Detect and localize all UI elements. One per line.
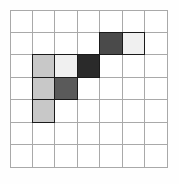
grid-cell-empty-2-4[interactable] xyxy=(55,100,78,123)
grid-cell-empty-1-5[interactable] xyxy=(33,123,56,146)
grid-cell-empty-3-5[interactable] xyxy=(78,123,101,146)
grid-cell-filled-2-3[interactable] xyxy=(55,78,78,101)
grid-cell-empty-2-6[interactable] xyxy=(55,145,78,168)
grid-cell-fill-2-2 xyxy=(54,54,78,78)
grid-cell-filled-1-2[interactable] xyxy=(33,55,56,78)
grid-cell-empty-6-5[interactable] xyxy=(145,123,168,146)
grid-cell-empty-5-3[interactable] xyxy=(123,78,146,101)
grid-cell-empty-6-3[interactable] xyxy=(145,78,168,101)
grid-cell-fill-1-3 xyxy=(32,77,56,101)
grid-cell-empty-3-6[interactable] xyxy=(78,145,101,168)
grid-cell-empty-0-6[interactable] xyxy=(10,145,33,168)
grid-cell-empty-5-5[interactable] xyxy=(123,123,146,146)
grid-cell-empty-5-2[interactable] xyxy=(123,55,146,78)
grid-cell-empty-5-0[interactable] xyxy=(123,10,146,33)
grid-canvas xyxy=(0,0,179,184)
grid-cell-empty-5-4[interactable] xyxy=(123,100,146,123)
grid-cell-fill-1-2 xyxy=(32,54,56,78)
grid-board xyxy=(10,10,168,168)
grid-cell-empty-0-0[interactable] xyxy=(10,10,33,33)
grid-cell-empty-6-0[interactable] xyxy=(145,10,168,33)
grid-cell-fill-4-1 xyxy=(99,32,123,56)
grid-cell-empty-2-1[interactable] xyxy=(55,33,78,56)
grid-cell-empty-6-2[interactable] xyxy=(145,55,168,78)
grid-cell-empty-0-2[interactable] xyxy=(10,55,33,78)
grid-cell-empty-1-6[interactable] xyxy=(33,145,56,168)
grid-cell-fill-2-3 xyxy=(54,77,78,101)
grid-cell-empty-4-5[interactable] xyxy=(100,123,123,146)
grid-cell-empty-3-3[interactable] xyxy=(78,78,101,101)
grid-cell-filled-2-2[interactable] xyxy=(55,55,78,78)
grid-cell-empty-3-4[interactable] xyxy=(78,100,101,123)
grid-cell-filled-4-1[interactable] xyxy=(100,33,123,56)
grid-cell-empty-4-4[interactable] xyxy=(100,100,123,123)
grid-cell-empty-0-3[interactable] xyxy=(10,78,33,101)
grid-cell-fill-3-2 xyxy=(77,54,101,78)
grid-cell-fill-1-4 xyxy=(32,99,56,123)
grid-cell-fill-5-1 xyxy=(122,32,146,56)
grid-cell-empty-0-4[interactable] xyxy=(10,100,33,123)
grid-cell-empty-2-5[interactable] xyxy=(55,123,78,146)
grid-cell-empty-2-0[interactable] xyxy=(55,10,78,33)
grid-cell-empty-3-1[interactable] xyxy=(78,33,101,56)
grid-cell-empty-4-2[interactable] xyxy=(100,55,123,78)
grid-cell-empty-3-0[interactable] xyxy=(78,10,101,33)
grid-cell-empty-6-1[interactable] xyxy=(145,33,168,56)
grid-cell-empty-1-0[interactable] xyxy=(33,10,56,33)
grid-cell-filled-1-4[interactable] xyxy=(33,100,56,123)
grid-cell-empty-4-6[interactable] xyxy=(100,145,123,168)
grid-cell-filled-1-3[interactable] xyxy=(33,78,56,101)
grid-cell-filled-5-1[interactable] xyxy=(123,33,146,56)
grid-cell-empty-1-1[interactable] xyxy=(33,33,56,56)
grid-cell-empty-0-5[interactable] xyxy=(10,123,33,146)
grid-cell-empty-4-0[interactable] xyxy=(100,10,123,33)
grid-cell-empty-6-6[interactable] xyxy=(145,145,168,168)
grid-cell-empty-6-4[interactable] xyxy=(145,100,168,123)
grid-cell-empty-4-3[interactable] xyxy=(100,78,123,101)
grid-cell-empty-0-1[interactable] xyxy=(10,33,33,56)
grid-cell-empty-5-6[interactable] xyxy=(123,145,146,168)
grid-cell-filled-3-2[interactable] xyxy=(78,55,101,78)
